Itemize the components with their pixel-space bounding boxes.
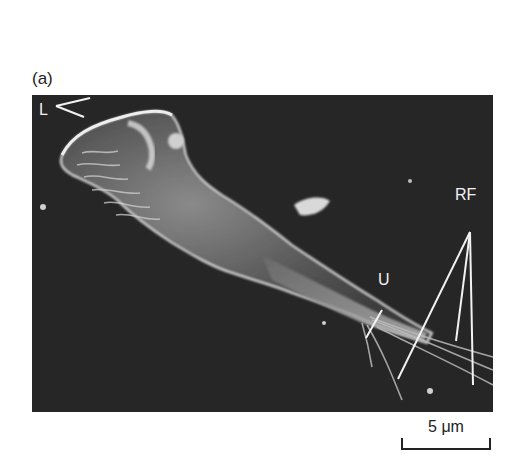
sem-micrograph: L U RF bbox=[32, 95, 493, 412]
scale-bar: 5 μm bbox=[398, 416, 494, 456]
label-lamellipodia: L bbox=[39, 102, 48, 118]
label-retraction-fibers: RF bbox=[455, 187, 476, 203]
cell-body bbox=[61, 111, 432, 343]
cell-image bbox=[32, 95, 493, 412]
scale-bar-line bbox=[401, 438, 491, 450]
panel-label: (a) bbox=[32, 69, 53, 89]
scale-bar-label: 5 μm bbox=[398, 418, 494, 436]
label-uropod: U bbox=[378, 272, 390, 288]
